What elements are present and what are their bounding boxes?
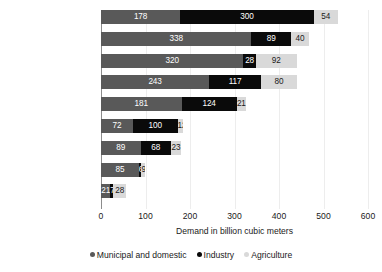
plot-area: 1783005433889403202892243117801811242172…	[101, 10, 368, 206]
stacked-bar-chart: 1783005433889403202892243117801811242172…	[0, 0, 382, 272]
bar-row: 24311780	[101, 75, 297, 89]
x-tick-label: 100	[126, 211, 166, 221]
bar-value-label: 12	[178, 121, 183, 131]
bar-row: 896823	[101, 141, 181, 155]
gridline	[368, 10, 369, 209]
x-tick-label: 400	[259, 211, 299, 221]
bar-segment-municipal-and-domestic: 89	[101, 141, 141, 155]
bar-segment-municipal-and-domestic: 338	[101, 32, 251, 46]
bar-value-label: 92	[256, 56, 297, 66]
legend-label: Agriculture	[251, 250, 292, 260]
chart-legend: Municipal and domesticIndustryAgricultur…	[0, 250, 382, 261]
bar-row: 3388940	[101, 32, 309, 46]
bar-value-label: 40	[291, 34, 309, 44]
bar-segment-industry: 89	[251, 32, 291, 46]
legend-swatch-icon	[197, 252, 202, 257]
bar-row: 7210012	[101, 119, 183, 133]
bar-segment-municipal-and-domestic: 243	[101, 75, 209, 89]
legend-item[interactable]: Industry	[197, 250, 235, 261]
bar-segment-industry: 300	[180, 10, 314, 24]
x-axis-title: Demand in billion cubic meters	[101, 226, 368, 236]
bar-value-label: 124	[182, 99, 237, 109]
bar-segment-industry: 100	[133, 119, 178, 133]
bar-value-label: 72	[101, 121, 133, 131]
legend-swatch-icon	[90, 252, 95, 257]
bar-value-label: 320	[101, 56, 243, 66]
bar-segment-agriculture: 21	[237, 97, 246, 111]
bar-value-label: 21	[237, 99, 246, 109]
bar-segment-agriculture: 23	[171, 141, 181, 155]
bar-segment-industry: 124	[182, 97, 237, 111]
bar-value-label: 21	[101, 186, 110, 196]
bar-segment-municipal-and-domestic: 178	[101, 10, 180, 24]
bar-row: 18112421	[101, 97, 246, 111]
bar-segment-agriculture: 40	[291, 32, 309, 46]
bar-value-label: 181	[101, 99, 182, 109]
bar-value-label: 178	[101, 12, 180, 22]
bar-value-label: 85	[101, 165, 139, 175]
bar-value-label: 300	[180, 12, 314, 22]
bar-segment-municipal-and-domestic: 320	[101, 54, 243, 68]
bar-segment-municipal-and-domestic: 72	[101, 119, 133, 133]
bar-segment-agriculture: 28	[113, 184, 125, 198]
bar-value-label: 23	[171, 143, 181, 153]
bar-segment-municipal-and-domestic: 181	[101, 97, 182, 111]
legend-label: Industry	[204, 250, 235, 260]
bar-segment-agriculture: 92	[256, 54, 297, 68]
legend-swatch-icon	[244, 252, 249, 257]
bar-row: 8569	[101, 163, 145, 177]
x-tick-label: 600	[348, 211, 382, 221]
bar-value-label: 9	[141, 165, 145, 175]
bar-value-label: 68	[141, 143, 171, 153]
legend-item[interactable]: Municipal and domestic	[90, 250, 187, 261]
bar-segment-municipal-and-domestic: 85	[101, 163, 139, 177]
bar-row: 17830054	[101, 10, 338, 24]
bar-value-label: 100	[133, 121, 178, 131]
bar-segment-agriculture: 9	[141, 163, 145, 177]
bar-value-label: 80	[261, 77, 297, 87]
bar-value-label: 243	[101, 77, 209, 87]
bar-value-label: 28	[243, 56, 255, 66]
bar-segment-agriculture: 12	[178, 119, 183, 133]
x-tick-label: 0	[81, 211, 121, 221]
bar-segment-industry: 28	[243, 54, 255, 68]
bar-value-label: 28	[113, 186, 125, 196]
bar-value-label: 89	[101, 143, 141, 153]
bar-segment-agriculture: 80	[261, 75, 297, 89]
bar-row: 3202892	[101, 54, 297, 68]
bar-segment-agriculture: 54	[314, 10, 338, 24]
bar-value-label: 117	[209, 77, 261, 87]
bar-value-label: 54	[314, 12, 338, 22]
bar-segment-municipal-and-domestic: 21	[101, 184, 110, 198]
x-tick-label: 300	[215, 211, 255, 221]
legend-item[interactable]: Agriculture	[244, 250, 292, 261]
x-tick-label: 500	[304, 211, 344, 221]
legend-label: Municipal and domestic	[97, 250, 187, 260]
bar-value-label: 338	[101, 34, 251, 44]
bar-row: 21728	[101, 184, 126, 198]
x-tick-label: 200	[170, 211, 210, 221]
bar-segment-industry: 117	[209, 75, 261, 89]
bar-value-label: 89	[251, 34, 291, 44]
bar-segment-industry: 68	[141, 141, 171, 155]
